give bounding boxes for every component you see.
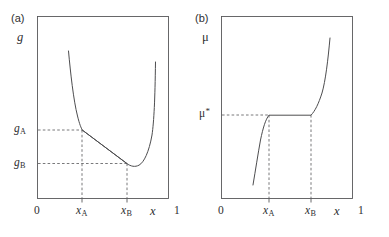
panel-b-x-axis-title: x xyxy=(334,205,340,218)
panel-b-tag: (b) xyxy=(195,13,208,24)
panel-a-ytick-gA-sub: A xyxy=(20,127,26,136)
panel-a-x-axis-title: x xyxy=(150,205,156,218)
panel-b-ytick-mustar: μ* xyxy=(199,108,210,120)
panel-b-ytick-mustar-base: μ xyxy=(199,107,205,119)
panel-a-graphics xyxy=(38,17,169,203)
panel-a-xtick-0: 0 xyxy=(34,205,40,217)
panel-b-xtick-xB-sub: B xyxy=(310,209,315,218)
panel-b-graphics xyxy=(222,17,353,203)
panel-b-xtick-1: 1 xyxy=(358,205,364,217)
panel-b-xtick-xA-sub: A xyxy=(268,209,274,218)
panel-a-xtick-xB-sub: B xyxy=(126,209,131,218)
panel-a-tag: (a) xyxy=(11,13,24,24)
panel-a-common-tangent xyxy=(82,130,127,163)
figure-svg xyxy=(0,0,389,237)
panel-b-frame xyxy=(222,17,353,199)
panel-b-xtick-xA: xA xyxy=(263,205,274,217)
panel-b-curve-mu xyxy=(253,38,330,185)
panel-a-ytick-gB-base: g xyxy=(14,156,20,168)
panel-b-ytick-mustar-star: * xyxy=(206,106,211,116)
panel-a-ytick-gB-sub: B xyxy=(20,161,25,170)
panel-a-y-axis-title: g xyxy=(17,31,23,44)
panel-a-xtick-xB: xB xyxy=(121,205,132,217)
panel-a-xtick-xA-sub: A xyxy=(81,209,87,218)
panel-b-y-axis-title: μ xyxy=(202,31,209,44)
panel-b-xtick-xB: xB xyxy=(305,205,316,217)
panel-b-xtick-0: 0 xyxy=(218,205,224,217)
panel-a-xtick-1: 1 xyxy=(174,205,180,217)
panel-a-ytick-gB: gB xyxy=(14,157,25,169)
panel-a-curve-g xyxy=(69,51,156,166)
panel-a-ytick-gA: gA xyxy=(14,123,26,135)
figure-container: (a) g gA gB 0 xA xB x 1 (b) μ μ* 0 xA xB… xyxy=(0,0,389,237)
panel-a-frame xyxy=(38,17,169,199)
panel-a-xtick-xA: xA xyxy=(76,205,87,217)
panel-a-ytick-gA-base: g xyxy=(14,122,20,134)
